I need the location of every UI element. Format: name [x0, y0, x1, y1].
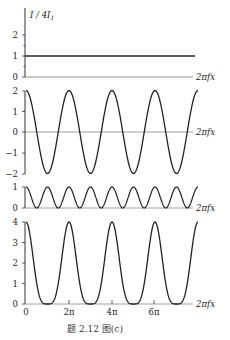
svg-text:0: 0 — [13, 127, 18, 137]
x-tick-label: 6π — [149, 307, 160, 317]
svg-text:0: 0 — [13, 72, 18, 82]
x-tick-label: 4π — [107, 307, 118, 317]
x-axis-label: 2πfx — [195, 72, 215, 82]
svg-text:3: 3 — [13, 238, 18, 248]
svg-text:1: 1 — [13, 279, 18, 289]
x-tick-label: 0 — [23, 307, 28, 317]
svg-text:1: 1 — [13, 107, 18, 117]
svg-text:2: 2 — [13, 30, 18, 40]
x-axis-label: 2πfx — [195, 299, 215, 309]
svg-text:2: 2 — [13, 86, 18, 96]
figure: I / 4I1 2 1 0 2πfx 2 1 0 −1 −2 2πfx 1 0 — [0, 0, 230, 340]
y-axis-label: I / 4I1 — [29, 10, 54, 21]
x-tick-label: 2π — [64, 307, 75, 317]
svg-text:0: 0 — [13, 203, 18, 213]
svg-text:−2: −2 — [5, 169, 18, 179]
data-curve — [26, 222, 198, 304]
x-axis-label: 2πfx — [195, 127, 215, 137]
panel-2: 2 1 0 −1 −2 2πfx — [5, 86, 215, 179]
svg-text:0: 0 — [13, 299, 18, 309]
panel-1: I / 4I1 2 1 0 2πfx — [13, 8, 216, 82]
svg-text:4: 4 — [13, 217, 18, 227]
figure-caption: 题 2.12 图(c) — [0, 322, 190, 335]
data-curve — [26, 187, 198, 208]
svg-text:−1: −1 — [5, 148, 18, 158]
panel-4: 4 3 2 1 0 0 2π 4π 6π 2πfx — [13, 217, 216, 317]
x-axis-label: 2πfx — [195, 203, 215, 213]
svg-text:1: 1 — [13, 182, 18, 192]
svg-text:2: 2 — [13, 258, 18, 268]
panel-3: 1 0 2πfx — [13, 182, 216, 213]
svg-text:1: 1 — [13, 51, 18, 61]
